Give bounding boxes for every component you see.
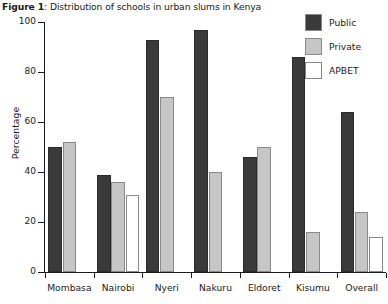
- y-axis-tick: [38, 122, 44, 123]
- y-axis-tick: [38, 72, 44, 73]
- bar-kisumu-private: [306, 232, 320, 272]
- bar-overall-public: [341, 112, 355, 272]
- bar-nyeri-public: [146, 40, 160, 273]
- legend-label-public: Public: [329, 17, 356, 28]
- bar-nairobi-apbet: [126, 195, 140, 273]
- x-axis-line: [44, 272, 386, 273]
- bar-nairobi-public: [97, 175, 111, 273]
- y-axis-line: [44, 22, 45, 273]
- bar-nakuru-public: [194, 30, 208, 273]
- legend-item-public[interactable]: Public: [305, 14, 388, 32]
- legend-item-apbet[interactable]: APBET: [305, 62, 388, 80]
- x-axis-tick: [45, 273, 46, 278]
- bar-nakuru-private: [209, 172, 223, 272]
- y-axis-tick-label: 20: [2, 217, 36, 226]
- x-axis-tick: [142, 273, 143, 278]
- bar-nairobi-private: [111, 182, 125, 272]
- y-axis-tick: [38, 172, 44, 173]
- legend-label-apbet: APBET: [329, 65, 359, 76]
- x-axis-tick: [337, 273, 338, 278]
- legend-label-private: Private: [329, 41, 361, 52]
- y-axis-tick-label: 0: [2, 267, 36, 276]
- bar-kisumu-public: [292, 57, 306, 272]
- x-axis-category-label-nakuru: Nakuru: [191, 282, 240, 293]
- x-axis-tick: [94, 273, 95, 278]
- bar-eldoret-private: [257, 147, 271, 272]
- x-axis-tick: [240, 273, 241, 278]
- bar-nyeri-private: [160, 97, 174, 272]
- x-axis-category-label-nyeri: Nyeri: [142, 282, 191, 293]
- y-axis-title: Percentage: [11, 93, 21, 173]
- chart-legend: PublicPrivateAPBET: [305, 14, 388, 80]
- x-axis-tick: [386, 273, 387, 278]
- bar-mombasa-public: [48, 147, 62, 272]
- bar-overall-apbet: [369, 237, 383, 272]
- legend-item-private[interactable]: Private: [305, 38, 388, 56]
- bar-mombasa-private: [63, 142, 77, 272]
- legend-swatch-apbet: [305, 62, 322, 79]
- figure-root: Figure 1: Distribution of schools in urb…: [0, 0, 388, 304]
- x-axis-tick: [191, 273, 192, 278]
- y-axis-tick: [38, 272, 44, 273]
- legend-swatch-public: [305, 14, 322, 31]
- x-axis-category-label-overall: Overall: [337, 282, 386, 293]
- legend-swatch-private: [305, 38, 322, 55]
- y-axis-tick: [38, 222, 44, 223]
- y-axis-tick-label: 80: [2, 67, 36, 76]
- bar-eldoret-public: [243, 157, 257, 272]
- y-axis-tick-label: 100: [2, 17, 36, 26]
- x-axis-category-label-eldoret: Eldoret: [240, 282, 289, 293]
- x-axis-category-label-mombasa: Mombasa: [45, 282, 94, 293]
- bar-overall-private: [355, 212, 369, 272]
- x-axis-category-label-nairobi: Nairobi: [94, 282, 143, 293]
- x-axis-category-label-kisumu: Kisumu: [289, 282, 338, 293]
- y-axis-tick: [38, 22, 44, 23]
- x-axis-tick: [289, 273, 290, 278]
